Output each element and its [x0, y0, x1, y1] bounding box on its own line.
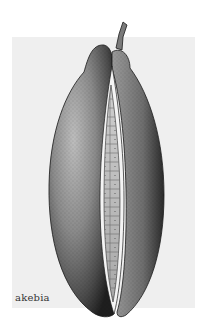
akebia-fruit-illustration — [0, 0, 199, 331]
stem — [116, 22, 127, 50]
figure-caption: akebia — [15, 292, 50, 303]
